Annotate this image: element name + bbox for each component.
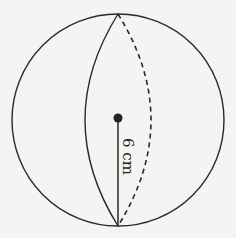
center-point bbox=[114, 114, 123, 123]
front-meridian bbox=[85, 14, 118, 226]
radius-label: 6 cm bbox=[119, 138, 137, 175]
sphere-diagram: 6 cm bbox=[0, 0, 236, 238]
hidden-meridian bbox=[118, 14, 151, 226]
